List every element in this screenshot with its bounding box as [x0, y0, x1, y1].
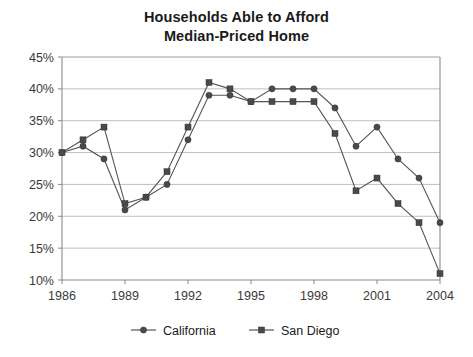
series-line-1	[62, 82, 440, 273]
y-tick-label-45: 45%	[29, 51, 54, 65]
data-point	[59, 150, 65, 156]
data-point	[353, 143, 359, 149]
gridlines	[62, 57, 440, 248]
y-tick-label-10: 10%	[29, 274, 54, 288]
x-tick-label-2004: 2004	[426, 289, 454, 303]
data-point	[185, 137, 191, 143]
data-point	[122, 207, 128, 213]
data-point	[374, 175, 380, 181]
data-point	[416, 220, 422, 226]
data-point	[80, 137, 86, 143]
data-point	[353, 188, 359, 194]
axes	[62, 57, 440, 280]
data-point	[248, 99, 254, 105]
legend-item-san-diego[interactable]: San Diego	[249, 324, 339, 338]
x-axis-ticks: 1986198919921995199820012004	[48, 280, 454, 303]
chart-legend: CaliforniaSan Diego	[131, 324, 339, 338]
data-point	[164, 169, 170, 175]
data-point	[101, 156, 107, 162]
legend-label: San Diego	[281, 324, 339, 338]
data-point	[437, 271, 443, 277]
data-point	[122, 201, 128, 207]
data-point	[143, 194, 149, 200]
legend-label: California	[163, 324, 216, 338]
y-tick-label-30: 30%	[29, 146, 54, 160]
series-san-diego	[59, 79, 443, 276]
data-point	[374, 124, 380, 130]
x-tick-label-2001: 2001	[363, 289, 391, 303]
data-point	[395, 201, 401, 207]
data-series	[59, 79, 443, 276]
data-point	[164, 181, 170, 187]
y-tick-label-25: 25%	[29, 178, 54, 192]
data-point	[290, 86, 296, 92]
data-point	[269, 86, 275, 92]
y-tick-label-35: 35%	[29, 114, 54, 128]
y-tick-label-40: 40%	[29, 82, 54, 96]
data-point	[80, 143, 86, 149]
data-point	[227, 86, 233, 92]
y-tick-label-20: 20%	[29, 210, 54, 224]
x-tick-label-1998: 1998	[300, 289, 328, 303]
y-axis-ticks: 10%15%20%25%30%35%40%45%	[29, 51, 62, 288]
data-point	[332, 105, 338, 111]
data-point	[227, 92, 233, 98]
series-california	[59, 86, 443, 226]
data-point	[206, 79, 212, 85]
data-point	[311, 86, 317, 92]
series-line-0	[62, 89, 440, 223]
data-point	[332, 130, 338, 136]
data-point	[206, 92, 212, 98]
x-tick-label-1986: 1986	[48, 289, 76, 303]
data-point	[290, 99, 296, 105]
chart-plot: 10%15%20%25%30%35%40%45% 198619891992199…	[0, 0, 473, 357]
data-point	[269, 99, 275, 105]
x-tick-label-1992: 1992	[174, 289, 202, 303]
x-tick-label-1995: 1995	[237, 289, 265, 303]
x-tick-label-1989: 1989	[111, 289, 139, 303]
data-point	[185, 124, 191, 130]
data-point	[437, 220, 443, 226]
legend-item-california[interactable]: California	[131, 324, 216, 338]
data-point	[311, 99, 317, 105]
legend-marker-square-icon	[259, 327, 265, 333]
chart-container: Households Able to Afford Median-Priced …	[0, 0, 473, 357]
data-point	[101, 124, 107, 130]
data-point	[416, 175, 422, 181]
legend-marker-circle-icon	[140, 327, 146, 333]
data-point	[395, 156, 401, 162]
y-tick-label-15: 15%	[29, 242, 54, 256]
